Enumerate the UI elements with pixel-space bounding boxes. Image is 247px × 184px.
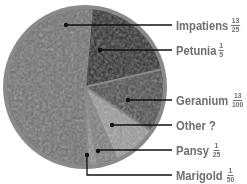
fraction: 1325 [231,17,240,34]
fraction-denominator: 5 [219,51,224,59]
label-name: Other ? [176,118,216,133]
label-name: Geranium [176,93,228,108]
label-name: Pansy [176,143,209,158]
label-marigold: Marigold150 [176,165,236,183]
label-name: Marigold [176,168,223,183]
fraction-denominator: 25 [212,151,221,159]
label-other: Other ? [176,115,216,135]
leader-dot [110,123,114,127]
label-name: Petunia [176,43,216,58]
label-pansy: Pansy125 [176,140,222,160]
label-geranium: Geranium13100 [176,90,245,110]
fraction-denominator: 50 [226,176,235,184]
label-impatiens: Impatiens1325 [176,15,241,35]
fraction-denominator: 100 [231,101,244,109]
fraction: 15 [219,42,224,59]
leader-dot [96,149,100,153]
label-petunia: Petunia15 [176,40,225,60]
leader-dot [98,48,102,52]
leader-dot [126,98,130,102]
fraction: 125 [212,142,221,159]
fraction: 150 [226,167,235,184]
fraction: 13100 [231,92,244,109]
leader-dot [85,153,89,157]
leader-dot [64,23,68,27]
pie-slices [3,5,167,169]
label-name: Impatiens [176,18,228,33]
fraction-denominator: 25 [231,26,240,34]
pie-slice-impatiens [7,9,92,165]
